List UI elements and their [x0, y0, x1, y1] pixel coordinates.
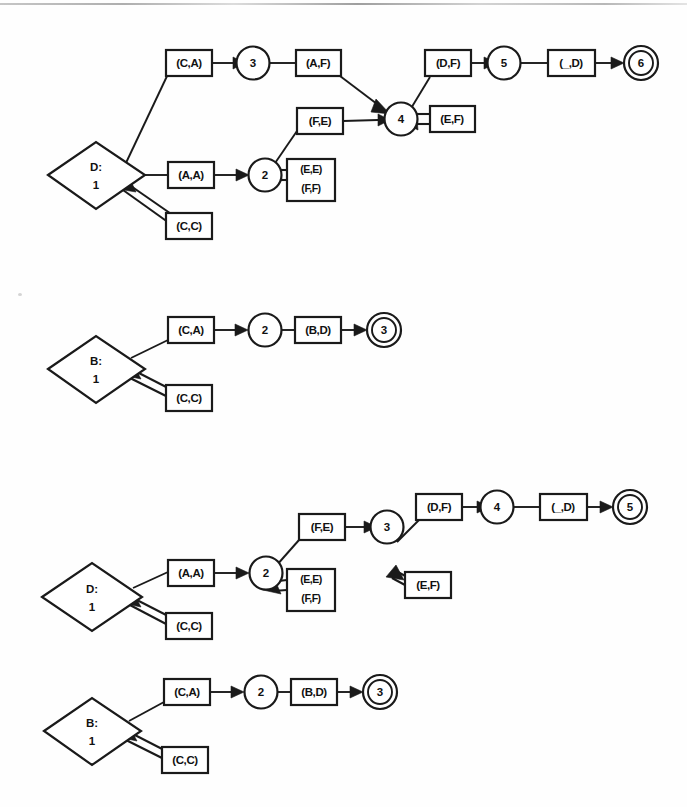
edge-4-to-df [410, 77, 430, 110]
transition-box-df[interactable]: (D,F) [416, 494, 462, 520]
transition-box-fe[interactable]: (F,E) [297, 108, 343, 134]
transition-box-aa[interactable]: (A,A) [168, 560, 214, 586]
transition-box-cc[interactable]: (C,C) [166, 385, 212, 411]
start-node-d4[interactable]: B: 1 [44, 698, 141, 765]
arrow-ca-to-2 [235, 324, 248, 336]
state-node-4[interactable]: 4 [481, 491, 514, 524]
arrow-ca-to-2 [231, 686, 244, 698]
transition-label: (A,F) [306, 57, 331, 69]
edge-start-to-ca [125, 74, 168, 165]
transition-box-df[interactable]: (D,F) [425, 50, 471, 76]
transition-label: (A,A) [178, 169, 204, 181]
transition-box-ca[interactable]: (C,A) [166, 50, 212, 76]
state-label: 5 [501, 57, 508, 69]
transition-label: (_,D) [559, 57, 583, 69]
start-node-index: 1 [93, 373, 100, 385]
transition-box-aa[interactable]: (A,A) [168, 162, 214, 188]
transition-box-ca[interactable]: (C,A) [168, 317, 214, 343]
arrow-blankd-to-6 [611, 57, 624, 69]
state-node-2[interactable]: 2 [249, 159, 282, 192]
transition-box-ee-ff[interactable]: (E,E) (F,F) [287, 569, 335, 611]
edge-start-to-ca [129, 702, 164, 721]
transition-label: (C,C) [172, 754, 198, 766]
accepting-state-node-3[interactable]: 3 [367, 313, 401, 347]
edge-cc-return-a [128, 604, 168, 625]
transition-label: (_,D) [551, 501, 575, 513]
transition-box-cc[interactable]: (C,C) [162, 747, 208, 773]
transition-box-fe[interactable]: (F,E) [299, 514, 345, 540]
transition-label: (C,C) [176, 220, 202, 232]
state-label: 3 [384, 521, 390, 533]
state-label: 2 [263, 567, 269, 579]
state-node-2[interactable]: 2 [249, 314, 282, 347]
arrow-aa-to-2 [236, 567, 249, 579]
start-node-d3[interactable]: D: 1 [42, 563, 142, 631]
diagram-2: B: 1 (C,A) (B,D) (C,C) 2 3 [48, 313, 401, 411]
state-label: 2 [262, 324, 268, 336]
transition-label-line1: (E,E) [300, 163, 322, 175]
state-label: 3 [381, 324, 387, 336]
edge-cc-return-a [128, 377, 168, 397]
transition-label-line2: (F,F) [301, 592, 320, 604]
diagrams-canvas: D: 1 (C,A) (A,F) (D,F) (_,D) [0, 0, 687, 807]
transition-box-blank-d[interactable]: (_,D) [540, 494, 587, 520]
transition-label: (B,D) [305, 324, 331, 336]
transition-box-cc[interactable]: (C,C) [166, 213, 212, 239]
edge-cc-return-a [123, 190, 172, 225]
start-node-d2[interactable]: B: 1 [48, 336, 145, 403]
transition-box-bd[interactable]: (B,D) [295, 317, 341, 343]
transition-label: (E,F) [416, 579, 440, 591]
arrow-aa-to-2 [236, 169, 249, 181]
edge-cc-return-a [124, 739, 164, 759]
edge-fe-to-4 [343, 120, 378, 121]
start-node-name: D: [90, 161, 102, 173]
state-label: 2 [258, 686, 264, 698]
accepting-state-node-6[interactable]: 6 [624, 46, 658, 80]
scan-line-artifact [0, 3, 687, 5]
transition-label: (C,A) [174, 686, 200, 698]
state-node-2[interactable]: 2 [245, 676, 278, 709]
transition-box-ca[interactable]: (C,A) [164, 679, 210, 705]
start-node-index: 1 [89, 601, 96, 613]
transition-label: (C,A) [176, 57, 202, 69]
transition-label: (D,F) [436, 57, 461, 69]
arrow-bd-to-3 [350, 686, 363, 698]
accepting-state-node-3[interactable]: 3 [363, 675, 397, 709]
transition-label-line1: (E,E) [300, 573, 322, 585]
transition-box-bd[interactable]: (B,D) [291, 679, 337, 705]
edge-start-to-aa [133, 572, 168, 588]
start-node-name: B: [90, 355, 102, 367]
accepting-state-node-5[interactable]: 5 [613, 490, 647, 524]
start-node-index: 1 [93, 179, 100, 191]
transition-label: (B,D) [301, 686, 327, 698]
state-label: 4 [398, 113, 405, 125]
diagram-4: B: 1 (C,A) (B,D) (C,C) 2 3 [44, 675, 397, 773]
transition-box-blank-d[interactable]: (_,D) [548, 50, 595, 76]
transition-label: (C,C) [176, 392, 202, 404]
state-node-2[interactable]: 2 [250, 557, 283, 590]
transition-label: (C,A) [178, 324, 204, 336]
state-label: 3 [377, 686, 383, 698]
state-node-5[interactable]: 5 [488, 47, 521, 80]
transition-box-ef[interactable]: (E,F) [430, 106, 475, 132]
diagram-1: D: 1 (C,A) (A,F) (D,F) (_,D) [48, 46, 658, 239]
transition-label: (C,C) [176, 620, 202, 632]
state-label: 6 [638, 57, 644, 69]
transition-label: (A,A) [178, 567, 204, 579]
start-node-index: 1 [89, 735, 96, 747]
transition-box-cc[interactable]: (C,C) [166, 613, 212, 639]
paper-speck-artifact [18, 293, 22, 296]
transition-box-ef[interactable]: (E,F) [405, 572, 451, 598]
state-node-3[interactable]: 3 [237, 47, 270, 80]
transition-box-af[interactable]: (A,F) [296, 50, 341, 76]
transition-label-line2: (F,F) [301, 182, 320, 194]
arrow-ef-to-3 [386, 565, 404, 580]
state-label: 2 [262, 169, 268, 181]
diagram-page: D: 1 (C,A) (A,F) (D,F) (_,D) [0, 0, 687, 807]
state-node-4[interactable]: 4 [385, 103, 418, 136]
start-node-name: B: [86, 717, 98, 729]
transition-box-ee-ff[interactable]: (E,E) (F,F) [287, 159, 335, 201]
state-node-3[interactable]: 3 [371, 511, 404, 544]
state-label: 5 [627, 501, 634, 513]
transition-label: (F,E) [311, 521, 334, 533]
